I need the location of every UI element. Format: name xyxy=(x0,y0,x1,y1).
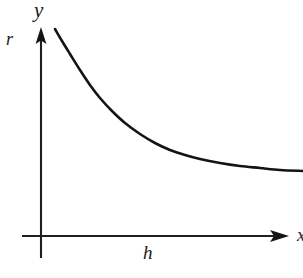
y-axis-tip-label: y xyxy=(34,0,43,21)
x-axis-tip-label: x xyxy=(297,225,303,244)
data-curve xyxy=(55,29,303,171)
horizontal-axis-quantity-label: h xyxy=(143,243,153,262)
axis-and-curve-graphic xyxy=(0,0,303,278)
vertical-axis-quantity-label: r xyxy=(6,30,13,48)
x-axis-group xyxy=(22,230,289,242)
figure-canvas: y r h x xyxy=(0,0,303,278)
y-axis-group xyxy=(36,27,47,258)
